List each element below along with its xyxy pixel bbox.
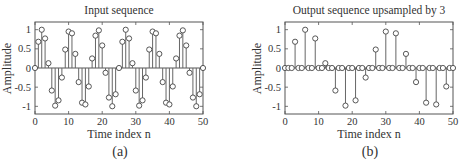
stem-marker <box>93 33 98 38</box>
stem-marker <box>440 65 445 70</box>
y-tick-label: 0.5 <box>18 43 31 54</box>
stem-marker <box>292 39 297 44</box>
stem-marker <box>110 104 115 109</box>
stem-marker <box>299 65 304 70</box>
stem-marker <box>120 39 125 44</box>
stem-marker <box>313 36 318 41</box>
stem-marker <box>360 65 365 70</box>
y-axis-label: Amplitude <box>0 39 15 99</box>
stem-marker <box>450 65 455 70</box>
stem-marker <box>123 27 128 32</box>
y-tick-label: 1 <box>26 24 31 35</box>
stem-marker <box>444 84 449 89</box>
stem-marker <box>36 39 41 44</box>
stem-marker <box>194 104 199 109</box>
figure-caption: (a) <box>100 144 140 160</box>
stem-marker <box>106 95 111 100</box>
stem-marker <box>177 33 182 38</box>
stem-marker <box>400 65 405 70</box>
stem-marker <box>116 65 121 70</box>
stem-marker <box>353 98 358 103</box>
x-tick-label: 20 <box>347 116 358 127</box>
stem-marker <box>323 61 328 66</box>
stem-marker <box>303 27 308 32</box>
x-tick-label: 30 <box>381 116 392 127</box>
stem-marker <box>363 75 368 80</box>
stem-marker <box>90 56 95 61</box>
y-tick-label: -1 <box>22 101 31 112</box>
stem-marker <box>96 28 101 33</box>
y-tick-label: 0.5 <box>268 43 281 54</box>
stem-marker <box>393 31 398 36</box>
stem-marker <box>76 80 81 85</box>
stem-marker <box>380 65 385 70</box>
stem-marker <box>56 98 61 103</box>
stem-marker <box>39 27 44 32</box>
stem-marker <box>153 31 158 36</box>
x-tick-label: 20 <box>97 116 108 127</box>
x-tick-label: 30 <box>131 116 142 127</box>
x-tick-label: 0 <box>32 116 37 127</box>
stem-marker <box>329 65 334 70</box>
stem-marker <box>390 65 395 70</box>
stem-marker <box>289 65 294 70</box>
stem-marker <box>32 65 37 70</box>
stem-marker <box>383 29 388 34</box>
chart-panel-a: 0102030405010.50-0.5-1 Input sequence Ti… <box>0 0 230 164</box>
stem-marker <box>174 56 179 61</box>
stem-marker <box>343 103 348 108</box>
y-tick-label: 0 <box>276 63 281 74</box>
stem-marker <box>137 103 142 108</box>
x-axis-label: Time index n <box>285 127 453 142</box>
stem-marker <box>69 31 74 36</box>
stem-marker <box>370 65 375 70</box>
x-axis-label: Time index n <box>35 127 203 142</box>
stem-marker <box>184 43 189 48</box>
chart-panel-b: 0102030405010.50-0.5-1 Output sequence u… <box>230 0 460 164</box>
stem-marker <box>333 88 338 93</box>
stem-marker <box>187 70 192 75</box>
x-tick-label: 10 <box>63 116 74 127</box>
y-tick-label: -0.5 <box>264 82 281 93</box>
stem-marker <box>180 28 185 33</box>
stem-marker <box>200 65 205 70</box>
stem-marker <box>434 102 439 107</box>
x-tick-label: 0 <box>282 116 287 127</box>
stem-marker <box>46 61 51 66</box>
stem-marker <box>103 70 108 75</box>
stem-marker <box>170 84 175 89</box>
stem-marker <box>140 98 145 103</box>
stem-marker <box>130 61 135 66</box>
x-tick-label: 50 <box>198 116 209 127</box>
stem-marker <box>53 103 58 108</box>
stem-marker <box>350 65 355 70</box>
x-tick-label: 40 <box>414 116 425 127</box>
stem-marker <box>167 102 172 107</box>
y-tick-label: -1 <box>272 101 281 112</box>
y-tick-label: -0.5 <box>14 82 31 93</box>
chart-title: Output sequence upsampled by 3 <box>285 4 453 16</box>
stem-marker <box>430 65 435 70</box>
stem-marker <box>63 47 68 52</box>
stem-marker <box>160 80 165 85</box>
plot-area: 0102030405010.50-0.5-1 <box>264 22 458 127</box>
stem-marker <box>197 92 202 97</box>
x-tick-label: 50 <box>448 116 459 127</box>
stem-marker <box>340 65 345 70</box>
y-tick-label: 1 <box>276 24 281 35</box>
stem-marker <box>113 92 118 97</box>
x-tick-label: 40 <box>164 116 175 127</box>
stem-marker <box>190 95 195 100</box>
stem-marker <box>413 80 418 85</box>
stem-marker <box>86 84 91 89</box>
stem-marker <box>147 47 152 52</box>
stem-marker <box>157 51 162 56</box>
figure-caption: (b) <box>350 144 390 160</box>
stem-marker <box>319 65 324 70</box>
y-axis-label: Amplitude <box>250 39 265 99</box>
stem-marker <box>83 102 88 107</box>
stem-marker <box>42 36 47 41</box>
stem-marker <box>100 43 105 48</box>
stem-marker <box>59 75 64 80</box>
stem-marker <box>133 88 138 93</box>
